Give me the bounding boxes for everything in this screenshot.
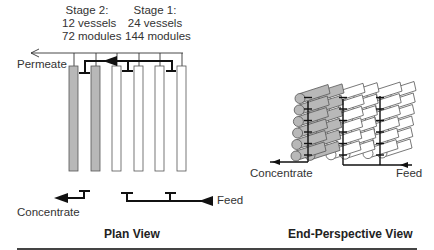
- stage1-vessel: [134, 66, 143, 171]
- end-feed-arrow-icon: [400, 162, 408, 168]
- stage2-vessel: [69, 66, 78, 171]
- feed-line: [121, 193, 213, 201]
- stage2-vessel-end: [295, 94, 305, 104]
- concentrate-line: [66, 191, 90, 198]
- stage1-vessel: [177, 66, 186, 171]
- plan-view: [31, 49, 213, 206]
- stage2-vessel-end: [293, 117, 303, 127]
- stage2-vessel-end: [291, 151, 301, 161]
- diagram-canvas: [0, 0, 434, 250]
- stage1-vessel: [155, 66, 164, 171]
- bottom-divider: [17, 248, 417, 250]
- stage2-vessel-end: [294, 105, 304, 115]
- stage2-vessel-end: [292, 140, 302, 150]
- stage2-vessel: [91, 66, 100, 171]
- feed-arrow-icon: [199, 196, 213, 206]
- stage1-vessel: [112, 66, 121, 171]
- interstage-arrow-icon: [103, 56, 117, 66]
- end-concentrate-arrow-icon: [272, 159, 280, 165]
- end-perspective-view: [270, 82, 416, 169]
- permeate-manifold: [31, 49, 183, 66]
- concentrate-arrow-icon: [54, 193, 68, 203]
- stage2-vessel-end: [293, 128, 303, 138]
